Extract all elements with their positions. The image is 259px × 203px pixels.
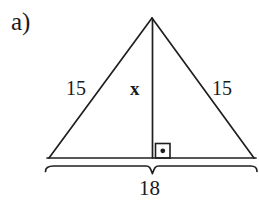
label-right-side: 15 — [212, 78, 232, 98]
triangle-right-side — [152, 18, 254, 158]
part-label: a) — [11, 9, 30, 34]
right-angle-marker — [156, 144, 171, 159]
figure-canvas: a) 15 x 15 18 — [0, 0, 259, 203]
base-brace-icon — [46, 166, 258, 174]
label-base: 18 — [139, 178, 160, 199]
label-altitude: x — [130, 79, 140, 98]
label-left-side: 15 — [66, 78, 86, 98]
right-angle-dot-icon — [160, 148, 165, 153]
geometry-diagram — [0, 0, 259, 203]
